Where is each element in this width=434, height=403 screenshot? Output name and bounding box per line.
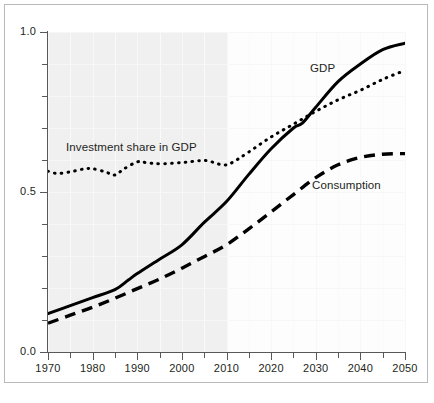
x-axis-tick-minor bbox=[249, 353, 250, 358]
y-axis-tick-minor bbox=[42, 160, 47, 161]
y-axis-tick-minor bbox=[42, 96, 47, 97]
x-axis-tick-label: 1980 bbox=[70, 362, 116, 374]
x-axis-tick bbox=[137, 353, 138, 360]
x-axis-tick bbox=[93, 353, 94, 360]
x-axis-tick bbox=[271, 353, 272, 360]
y-axis-tick-label: 0.5 bbox=[2, 185, 36, 197]
y-axis-tick-minor bbox=[42, 256, 47, 257]
x-axis-tick-minor bbox=[115, 353, 116, 358]
y-axis-tick-label: 1.0 bbox=[2, 25, 36, 37]
y-axis-tick-minor bbox=[42, 320, 47, 321]
series-lines bbox=[48, 32, 405, 352]
y-axis-tick-minor bbox=[42, 288, 47, 289]
x-axis-tick bbox=[48, 353, 49, 360]
chart-figure: 1.00.50.0 197019801990200020102020203020… bbox=[0, 0, 434, 403]
x-axis-tick bbox=[316, 353, 317, 360]
y-axis-tick bbox=[40, 352, 47, 353]
x-axis-tick-minor bbox=[204, 353, 205, 358]
x-axis-tick bbox=[405, 353, 406, 360]
x-axis-tick-label: 2040 bbox=[337, 362, 383, 374]
x-axis-tick-label: 2000 bbox=[159, 362, 205, 374]
plot-area bbox=[48, 32, 405, 352]
x-axis-tick-minor bbox=[70, 353, 71, 358]
x-axis-tick bbox=[360, 353, 361, 360]
y-axis-line bbox=[47, 31, 48, 353]
x-axis-tick-minor bbox=[293, 353, 294, 358]
x-axis-tick-label: 2030 bbox=[293, 362, 339, 374]
y-axis-tick-minor bbox=[42, 64, 47, 65]
x-axis-tick bbox=[227, 353, 228, 360]
x-axis-tick-label: 1970 bbox=[25, 362, 71, 374]
y-axis-tick-minor bbox=[42, 128, 47, 129]
x-axis-tick-minor bbox=[338, 353, 339, 358]
x-axis-tick bbox=[182, 353, 183, 360]
x-axis-tick-label: 1990 bbox=[114, 362, 160, 374]
series-label-consumption: Consumption bbox=[312, 179, 381, 191]
x-axis-tick-minor bbox=[160, 353, 161, 358]
x-axis-tick-label: 2050 bbox=[382, 362, 428, 374]
y-axis-tick bbox=[40, 32, 47, 33]
y-axis-tick-minor bbox=[42, 224, 47, 225]
y-axis-tick bbox=[40, 192, 47, 193]
y-axis-tick-label: 0.0 bbox=[2, 345, 36, 357]
x-axis-tick-minor bbox=[383, 353, 384, 358]
gridline-vertical bbox=[405, 32, 406, 352]
series-label-investment-share: Investment share in GDP bbox=[66, 141, 197, 153]
x-axis-tick-label: 2010 bbox=[204, 362, 250, 374]
series-label-gdp: GDP bbox=[310, 62, 335, 74]
x-axis-tick-label: 2020 bbox=[248, 362, 294, 374]
